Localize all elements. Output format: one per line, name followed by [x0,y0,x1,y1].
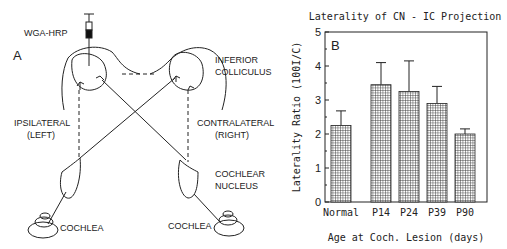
contra-label-2: (RIGHT) [215,130,249,140]
ic-label-2: COLLICULUS [215,67,272,77]
y-tick-label: 3 [315,94,321,106]
cochlea-left-label: COCHLEA [60,223,104,233]
figure: A WGA-HRP INFERIOR COLLICULUS IPSILATERA… [0,0,507,249]
left-cochlea-icon [28,213,58,238]
cochlea-right-label: COCHLEA [168,221,212,231]
y-axis-label: Laterality Ratio (100I/C) [291,42,302,193]
x-tick-label: P39 [428,207,446,218]
syringe-icon [84,14,94,66]
right-cochlear-nucleus [178,160,198,198]
right-ic [169,52,203,90]
panel-a-labels: A WGA-HRP INFERIOR COLLICULUS IPSILATERA… [13,28,274,233]
ipsi-label-1: IPSILATERAL [14,118,70,128]
cross-line-1 [102,80,186,160]
ipsi-label-2: (LEFT) [27,130,55,140]
y-tick-label: 0 [315,196,321,208]
y-tick-label: 1 [315,162,321,174]
x-tick-label: P90 [456,207,474,218]
contra-label-1: CONTRALATERAL [197,118,274,128]
tracer-label: WGA-HRP [24,28,68,38]
cn-label-1: COCHLEAR [215,169,266,179]
left-cochlear-nucleus [60,158,80,198]
x-tick-label: P24 [400,207,418,218]
y-tick-label: 5 [315,26,321,38]
panel-a-letter: A [13,48,22,63]
x-axis-label: Age at Coch. Lesion (days) [328,232,485,243]
cn-label-2: NUCLEUS [215,181,258,191]
right-nerve [194,194,220,222]
panel-b-letter: B [331,38,340,53]
bar-p24 [399,92,419,203]
x-tick-label: Normal [323,207,359,218]
y-tick-label: 2 [315,128,321,140]
bar-p90 [455,134,475,202]
right-cochlea-icon [214,211,244,236]
bar-p14 [371,85,391,202]
y-tick-label: 4 [315,60,321,72]
bar-normal [331,126,351,203]
chart-title: Laterality of CN - IC Projection [309,11,502,22]
ic-label-1: INFERIOR [215,55,259,65]
x-tick-label: P14 [372,207,390,218]
panel-b-chart: Laterality of CN - IC Projection B Later… [291,11,501,243]
bar-p39 [427,103,447,202]
